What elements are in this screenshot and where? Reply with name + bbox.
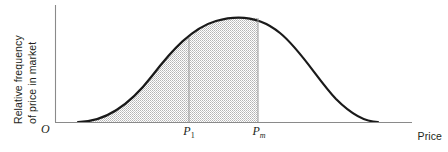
origin-label: O <box>41 122 50 137</box>
tick-label-pm: Pm <box>252 124 265 140</box>
x-axis-label: Price <box>418 130 442 142</box>
tick-p1-subscript: 1 <box>191 131 195 140</box>
tick-label-p1: P1 <box>183 124 194 140</box>
distribution-plot <box>0 0 448 152</box>
shaded-area <box>78 17 258 122</box>
tick-pm-subscript: m <box>260 131 266 140</box>
chart-figure: Relative frequency of price in market O … <box>0 0 448 152</box>
